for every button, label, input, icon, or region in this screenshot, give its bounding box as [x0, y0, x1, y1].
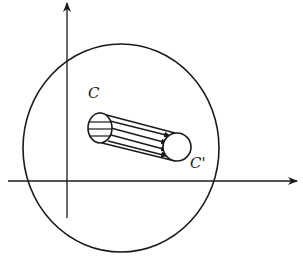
label-c-prime: C' [190, 156, 206, 171]
flow-tube-diagram [0, 0, 303, 262]
flow-lines [108, 121, 170, 156]
section-c-prime [163, 133, 191, 161]
label-c: C [88, 86, 99, 101]
section-c [88, 113, 112, 143]
